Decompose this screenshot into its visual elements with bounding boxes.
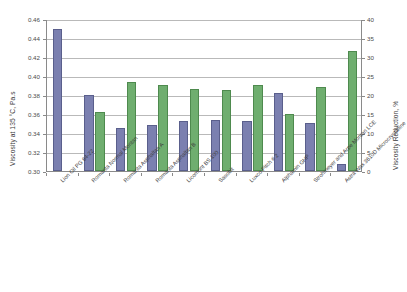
bar-viscosity[interactable]: [211, 120, 221, 171]
gridline: [47, 58, 361, 59]
y-tick-mark-right: [362, 172, 365, 173]
gridline: [47, 39, 361, 40]
y-tick-label-left: 0.44: [0, 36, 40, 42]
bar-viscosity-reduction[interactable]: [316, 87, 326, 171]
plot-area: [46, 20, 362, 172]
y-tick-mark-right: [362, 20, 365, 21]
bar-viscosity-reduction[interactable]: [253, 85, 263, 171]
y-tick-label-left: 0.34: [0, 131, 40, 137]
y-tick-label-right: 40: [367, 17, 397, 23]
y-tick-label-right: 25: [367, 74, 397, 80]
gridline: [47, 77, 361, 78]
y-tick-label-right: 20: [367, 93, 397, 99]
x-tick-mark: [299, 173, 300, 176]
bar-viscosity-reduction[interactable]: [222, 90, 232, 171]
x-tick-mark: [78, 173, 79, 176]
y-tick-mark-right: [362, 58, 365, 59]
x-tick-mark: [141, 173, 142, 176]
x-tick-mark: [267, 173, 268, 176]
y-tick-label-left: 0.42: [0, 55, 40, 61]
gridline: [47, 20, 361, 21]
y-tick-label-left: 0.36: [0, 112, 40, 118]
bar-viscosity-reduction[interactable]: [285, 114, 295, 171]
y-tick-mark-right: [362, 115, 365, 116]
bar-viscosity[interactable]: [337, 164, 347, 171]
y-tick-mark-right: [362, 39, 365, 40]
y-tick-mark-right: [362, 96, 365, 97]
y-tick-mark-right: [362, 153, 365, 154]
bar-viscosity[interactable]: [53, 29, 63, 172]
gridline: [47, 115, 361, 116]
x-tick-mark: [236, 173, 237, 176]
bar-viscosity-reduction[interactable]: [190, 89, 200, 171]
y-tick-label-right: 35: [367, 36, 397, 42]
y-tick-label-left: 0.46: [0, 17, 40, 23]
y-tick-label-left: 0.32: [0, 150, 40, 156]
bar-viscosity-reduction[interactable]: [95, 112, 105, 171]
y-tick-label-left: 0.38: [0, 93, 40, 99]
bar-viscosity-reduction[interactable]: [158, 85, 168, 171]
y-tick-label-right: 30: [367, 55, 397, 61]
x-tick-mark: [109, 173, 110, 176]
x-tick-mark: [172, 173, 173, 176]
bar-viscosity[interactable]: [242, 121, 252, 171]
gridline: [47, 96, 361, 97]
bar-viscosity[interactable]: [305, 123, 315, 171]
y-tick-label-right: 0: [367, 169, 397, 175]
x-tick-mark: [330, 173, 331, 176]
y-tick-label-left: 0.30: [0, 169, 40, 175]
x-tick-mark: [204, 173, 205, 176]
x-tick-mark: [46, 173, 47, 176]
y-tick-label-left: 0.40: [0, 74, 40, 80]
bar-viscosity-reduction[interactable]: [127, 82, 137, 171]
y-tick-mark-right: [362, 77, 365, 78]
bar-viscosity-reduction[interactable]: [348, 51, 358, 171]
y-tick-label-right: 15: [367, 112, 397, 118]
